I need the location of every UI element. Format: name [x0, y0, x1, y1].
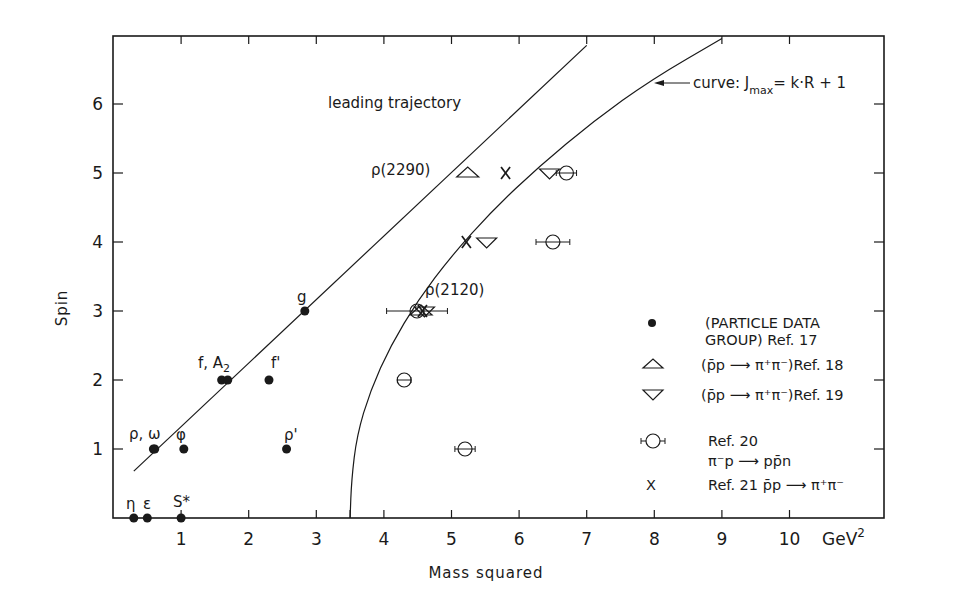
- x-tick-label: 9: [716, 529, 727, 549]
- legend-x-icon: X: [646, 477, 656, 493]
- legend-item-1-line2: GROUP) Ref. 17: [705, 332, 817, 348]
- legend-filled-circle-icon: [648, 319, 656, 327]
- x-axis-unit: GeV2: [822, 526, 865, 549]
- x-tick-label: 10: [779, 529, 801, 549]
- filled-circle-marker: [282, 445, 291, 454]
- regge-trajectory-chart: 12345678910 123456 Spin Mass squared GeV…: [0, 0, 972, 594]
- label-phi: φ: [176, 426, 186, 444]
- x-tick-label: 5: [446, 529, 457, 549]
- triangle-down-marker: [477, 238, 497, 248]
- x-tick-label: 4: [378, 529, 389, 549]
- filled-circle-marker: [179, 445, 188, 454]
- x-tick-label: 8: [649, 529, 660, 549]
- y-tick-label: 1: [92, 439, 103, 459]
- filled-circle-marker: [143, 514, 152, 523]
- label-rho-2290: ρ(2290): [371, 161, 430, 179]
- filled-circle-marker: [223, 376, 232, 385]
- x-tick-label: 3: [311, 529, 322, 549]
- plot-frame: [113, 36, 884, 518]
- x-axis-title: Mass squared: [428, 564, 543, 582]
- x-tick-label: 7: [581, 529, 592, 549]
- y-tick-label: 5: [92, 163, 103, 183]
- x-axis-ticks: [181, 36, 789, 518]
- legend-item-4-line1: Ref. 20: [708, 433, 758, 449]
- filled-circle-marker: [300, 307, 309, 316]
- label-rho-omega: ρ, ω: [129, 425, 161, 443]
- legend-item-4-line2: π⁻p ⟶ pp̄n: [708, 453, 791, 469]
- filled-circle-marker: [177, 514, 186, 523]
- legend-item-2: (p̄p ⟶ π⁺π⁻)Ref. 18: [701, 357, 844, 373]
- filled-circle-marker: [264, 376, 273, 385]
- label-eta: η: [126, 495, 136, 513]
- label-g: g: [297, 288, 307, 306]
- legend-item-3: (p̄p ⟶ π⁺π⁻)Ref. 19: [701, 387, 844, 403]
- label-rho-2120: ρ(2120): [425, 281, 484, 299]
- leading-trajectory-label: leading trajectory: [328, 94, 461, 112]
- legend-item-5: Ref. 21 p̄p ⟶ π⁺π⁻: [708, 477, 844, 493]
- y-tick-label: 6: [92, 94, 103, 114]
- label-rho-prime: ρ': [284, 426, 298, 444]
- legend-triangle-down-icon: [643, 390, 663, 400]
- y-axis-tick-labels: 123456: [92, 94, 103, 459]
- filled-circle-marker: [129, 514, 138, 523]
- y-tick-label: 4: [92, 232, 103, 252]
- legend-triangle-up-icon: [643, 359, 663, 368]
- y-axis-title: Spin: [53, 290, 71, 327]
- legend: (PARTICLE DATA GROUP) Ref. 17 (p̄p ⟶ π⁺π…: [641, 315, 844, 493]
- jmax-annotation: curve: Jmax= k·R + 1: [654, 74, 846, 97]
- point-labels: η ε S* ρ, ω φ ρ' f, A2 f' g ρ(2290) ρ(21…: [126, 161, 484, 513]
- label-epsilon: ε: [143, 495, 151, 513]
- x-axis-tick-labels: 12345678910: [176, 529, 801, 549]
- annotation-arrowhead-icon: [654, 80, 664, 86]
- y-tick-label: 3: [92, 301, 103, 321]
- x-tick-label: 6: [514, 529, 525, 549]
- label-f-prime: f': [271, 354, 280, 372]
- x-tick-label: 2: [243, 529, 254, 549]
- label-s-star: S*: [173, 493, 191, 511]
- x-tick-label: 1: [176, 529, 187, 549]
- filled-circle-marker: [150, 445, 159, 454]
- label-f-a2: f, A2: [198, 354, 230, 375]
- y-tick-label: 2: [92, 370, 103, 390]
- legend-item-1-line1: (PARTICLE DATA: [705, 315, 820, 331]
- jmax-label: curve: Jmax= k·R + 1: [693, 74, 846, 97]
- triangle-up-marker: [457, 167, 479, 177]
- legend-open-circle-errbar-icon: [641, 434, 665, 448]
